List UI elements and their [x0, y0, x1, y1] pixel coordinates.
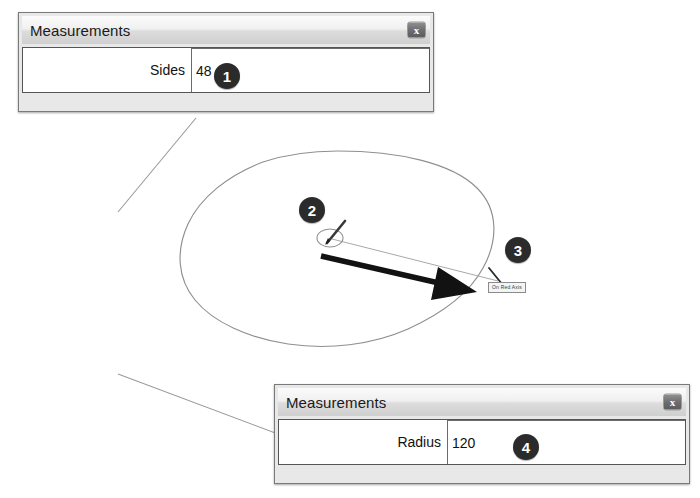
leader-line-bottom [118, 374, 278, 434]
dialog-title: Measurements [286, 394, 386, 411]
step-badge-4-number: 4 [522, 439, 530, 456]
sides-input-value: 48 [196, 63, 212, 79]
radius-field-label: Radius [279, 434, 441, 450]
pencil-cursor [325, 221, 345, 245]
step-badge-2: 2 [299, 197, 325, 223]
close-icon: x [670, 397, 676, 408]
step-badge-3: 3 [505, 237, 531, 263]
measurements-dialog-radius[interactable]: Measurements x Radius 120 [274, 384, 690, 484]
dialog-titlebar[interactable]: Measurements x [22, 16, 430, 44]
radius-field-row: Radius 120 [279, 420, 685, 464]
sides-field-label: Sides [23, 62, 185, 78]
dialog-titlebar[interactable]: Measurements x [278, 388, 686, 416]
dialog-title: Measurements [30, 22, 130, 39]
center-point-marker [317, 229, 343, 247]
dialog-body: Radius 120 [278, 419, 686, 465]
screenshot-root: Measurements x Sides 48 1 2 3 On Red Axi… [0, 0, 700, 498]
step-badge-3-number: 3 [514, 242, 522, 259]
step-badge-1-number: 1 [223, 68, 231, 85]
inference-tooltip-text: On Red Axis [492, 284, 522, 290]
radius-input-value: 120 [452, 435, 475, 451]
step-badge-1: 1 [214, 63, 240, 89]
radius-line [332, 239, 498, 281]
measurements-dialog-sides[interactable]: Measurements x Sides 48 [18, 12, 434, 112]
circle-geometry [180, 151, 494, 346]
drag-direction-arrow [321, 256, 477, 300]
leader-line-top [118, 118, 196, 212]
step-badge-2-number: 2 [308, 202, 316, 219]
radius-input[interactable]: 120 [447, 420, 685, 464]
inference-tooltip: On Red Axis [488, 282, 526, 293]
close-button[interactable]: x [407, 22, 426, 39]
close-icon: x [414, 25, 420, 36]
step-badge-4: 4 [513, 434, 539, 460]
close-button[interactable]: x [663, 394, 682, 411]
